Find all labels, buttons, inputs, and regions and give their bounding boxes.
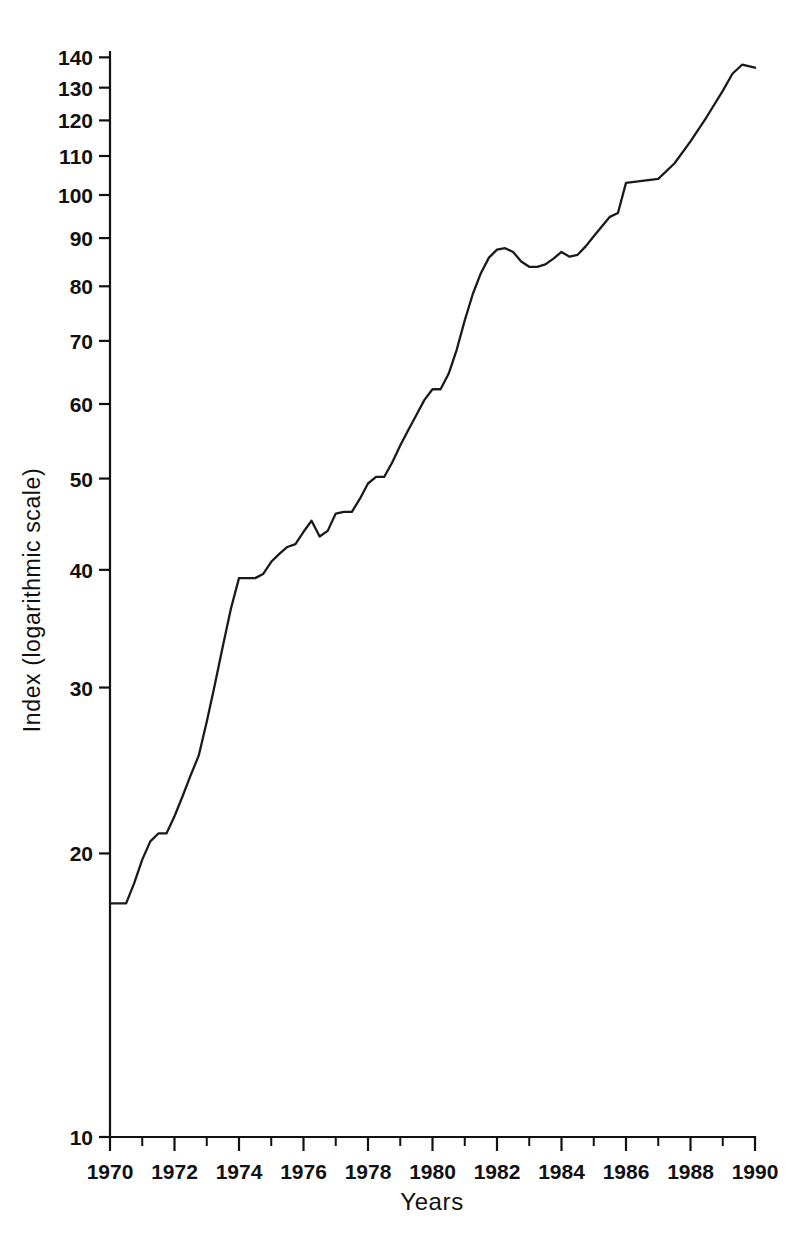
x-axis-tick-labels: 1970197219741976197819801982198419861988… [87, 1160, 779, 1183]
x-tick-label: 1986 [603, 1160, 650, 1183]
y-tick-label: 110 [59, 145, 93, 168]
y-tick-label: 30 [70, 677, 93, 700]
x-tick-label: 1976 [280, 1160, 327, 1183]
y-axis-ticks [99, 57, 110, 1137]
y-tick-label: 70 [70, 330, 93, 353]
y-tick-label: 130 [58, 77, 93, 100]
x-axis-title: Years [400, 1188, 464, 1215]
y-tick-label: 20 [70, 842, 93, 865]
x-tick-label: 1982 [474, 1160, 521, 1183]
data-series-line [110, 65, 755, 904]
line-chart: 102030405060708090100110120130140 197019… [0, 0, 808, 1246]
y-tick-label: 50 [70, 468, 93, 491]
x-tick-label: 1980 [409, 1160, 456, 1183]
x-tick-label: 1988 [667, 1160, 714, 1183]
y-axis-title: Index (logarithmic scale) [19, 468, 45, 732]
chart-container: 102030405060708090100110120130140 197019… [0, 0, 808, 1246]
x-axis-ticks [110, 1137, 755, 1151]
y-tick-label: 10 [70, 1126, 93, 1149]
x-tick-label: 1970 [87, 1160, 134, 1183]
x-tick-label: 1978 [345, 1160, 392, 1183]
y-tick-label: 90 [70, 227, 93, 250]
x-tick-label: 1984 [538, 1160, 585, 1183]
y-tick-label: 40 [70, 559, 93, 582]
x-tick-label: 1972 [151, 1160, 198, 1183]
x-tick-label: 1974 [216, 1160, 263, 1183]
y-tick-label: 120 [58, 109, 93, 132]
y-tick-label: 140 [58, 46, 93, 69]
y-tick-label: 60 [70, 393, 93, 416]
y-tick-label: 100 [58, 184, 93, 207]
x-tick-label: 1990 [732, 1160, 779, 1183]
y-tick-label: 80 [70, 275, 93, 298]
y-axis-tick-labels: 102030405060708090100110120130140 [58, 46, 93, 1149]
